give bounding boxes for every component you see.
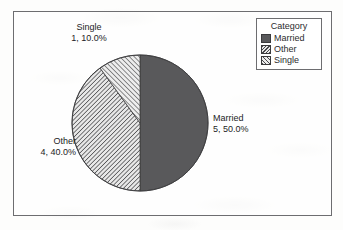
legend-item-married[interactable]: Married <box>261 33 317 44</box>
slice-label-married-value: 5, 50.0% <box>213 124 283 135</box>
slice-label-other-value: 4, 40.0% <box>14 147 76 158</box>
slice-label-other: Other 4, 40.0% <box>14 136 76 158</box>
pie-chart-screenshot: Single 1, 10.0% Other 4, 40.0% Married 5… <box>0 0 343 230</box>
legend-title: Category <box>261 21 317 32</box>
slice-label-married: Married 5, 50.0% <box>213 113 283 135</box>
legend-item-other[interactable]: Other <box>261 44 317 55</box>
slice-label-married-name: Married <box>213 113 244 123</box>
legend-item-single[interactable]: Single <box>261 55 317 66</box>
legend-item-single-label: Single <box>274 55 299 66</box>
legend-swatch-forwardslash-hatch-icon <box>261 56 271 65</box>
legend-item-other-label: Other <box>274 44 297 55</box>
legend-swatch-backslash-hatch-icon <box>261 45 271 54</box>
legend: Category Married Other Single <box>256 18 322 70</box>
slice-label-other-name: Other <box>53 136 76 146</box>
slice-label-single-name: Single <box>76 22 101 32</box>
slice-label-single: Single 1, 10.0% <box>58 22 120 44</box>
legend-item-married-label: Married <box>274 33 305 44</box>
legend-swatch-solid-icon <box>261 34 271 43</box>
pie-slice-married[interactable] <box>140 55 208 191</box>
slice-label-single-value: 1, 10.0% <box>58 33 120 44</box>
